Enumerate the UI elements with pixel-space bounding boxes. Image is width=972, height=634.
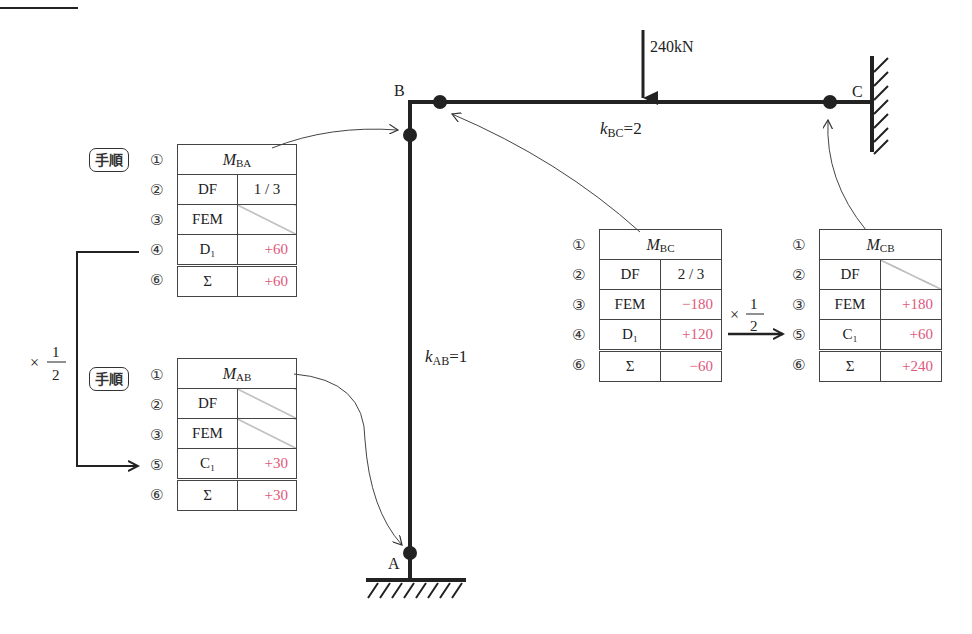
carry-over-arrow-left (77, 252, 139, 466)
table-mcb: MCB DF FEM+180 C₁+60 Σ+240 (819, 229, 942, 382)
svg-text:1: 1 (750, 296, 758, 312)
table-title: MCB (820, 230, 942, 260)
table-row: DF2 / 3 (600, 260, 722, 290)
leader-mcb (828, 120, 866, 230)
table-row: C₁+30 (178, 449, 297, 480)
table-title: MAB (178, 359, 297, 389)
node-b-label: B (394, 82, 405, 99)
table-row: FEM−180 (600, 290, 722, 320)
svg-text:×: × (730, 306, 739, 323)
table-row: FEM (178, 205, 297, 235)
table-mbc: MBC DF2 / 3 FEM−180 D₁+120 Σ−60 (599, 229, 722, 382)
node-a-label: A (388, 555, 400, 572)
table-title: MBC (600, 230, 722, 260)
table-row: D₁+60 (178, 235, 297, 266)
table-row: Σ+60 (178, 266, 297, 297)
step-numbers-mbc: ①②③④⑥ (572, 230, 585, 380)
table-row: FEM (178, 419, 297, 449)
carry-over-factor-right: × 1 2 (730, 296, 764, 334)
node-c-label: C (852, 83, 863, 100)
stiffness-ab-label: kAB=1 (425, 347, 467, 368)
table-row: DF (178, 389, 297, 419)
step-numbers-mcb: ①②③⑤⑥ (792, 230, 805, 380)
table-row: DF1 / 3 (178, 175, 297, 205)
svg-text:2: 2 (52, 367, 60, 383)
table-mba: MBA DF1 / 3 FEM D₁+60 Σ+60 (177, 144, 297, 297)
table-row: Σ+240 (820, 351, 942, 382)
table-mab: MAB DF FEM C₁+30 Σ+30 (177, 358, 297, 511)
table-row: FEM+180 (820, 290, 942, 320)
table-title: MBA (178, 145, 297, 175)
load-label: 240kN (650, 38, 694, 55)
carry-over-factor-left: × 1 2 (30, 344, 66, 383)
table-row: C₁+60 (820, 320, 942, 351)
stiffness-bc-label: kBC=2 (600, 119, 642, 140)
fixed-support-c-icon (872, 56, 888, 154)
fixed-support-a-icon (366, 580, 466, 598)
step-badge-mab: 手順 (89, 367, 129, 391)
svg-text:1: 1 (52, 344, 60, 360)
svg-text:2: 2 (750, 318, 758, 334)
joint-b-column (403, 128, 417, 142)
step-numbers-mba: ①②③④⑥ (150, 145, 163, 295)
joint-c (823, 95, 837, 109)
svg-text:×: × (30, 354, 39, 371)
joint-a (403, 546, 417, 560)
step-badge-mba: 手順 (89, 148, 129, 172)
step-numbers-mab: ①②③⑤⑥ (150, 360, 163, 510)
table-row: Σ+30 (178, 480, 297, 511)
table-row: DF (820, 260, 942, 290)
table-row: Σ−60 (600, 351, 722, 382)
joint-b-beam (433, 95, 447, 109)
leader-mab (294, 374, 402, 545)
table-row: D₁+120 (600, 320, 722, 351)
